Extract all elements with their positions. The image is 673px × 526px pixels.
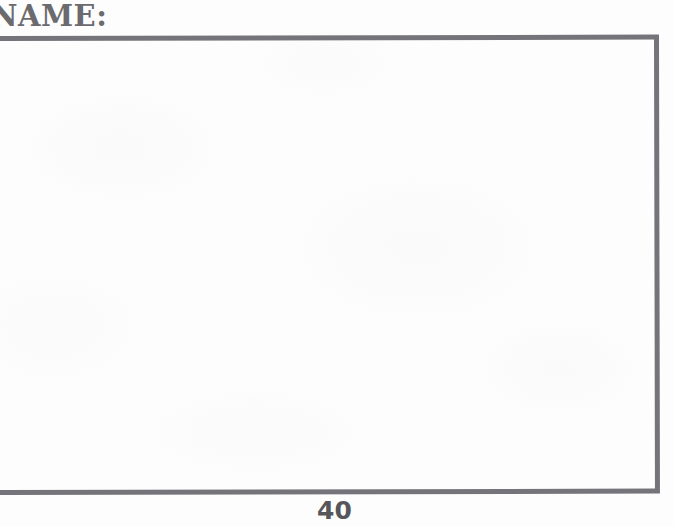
name-field-label: NAME: — [0, 0, 107, 33]
answer-box[interactable] — [0, 35, 660, 495]
page-number-value: 40 — [317, 496, 352, 525]
page-number: 40 — [0, 497, 673, 525]
worksheet-page: NAME: 40 — [0, 0, 673, 526]
